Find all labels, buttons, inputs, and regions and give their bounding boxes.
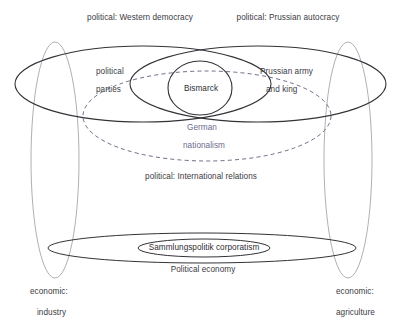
right-vertical-ellipse: [324, 42, 372, 278]
label-top-left-western-democracy: political: Western democracy: [87, 14, 193, 23]
label-sammlungspolitik-corporatism: Sammlungspolitik corporatism: [149, 244, 260, 253]
left-vertical-ellipse: [31, 42, 79, 278]
venn-diagram-canvas: political: Western democracy political: …: [0, 0, 401, 332]
label-top-right-prussian-autocracy: political: Prussian autocracy: [237, 14, 340, 23]
label-economic-industry-line1: economic:: [30, 288, 68, 297]
label-prussian-army-line2: and king: [266, 86, 297, 95]
label-political-parties-line2: parties: [96, 86, 121, 95]
venn-shapes-svg: [0, 0, 401, 332]
label-german-nationalism-line2: nationalism: [183, 142, 225, 151]
label-political-economy: Political economy: [171, 266, 236, 275]
label-economic-agriculture-line2: agriculture: [336, 309, 375, 318]
label-political-parties-line1: political: [96, 68, 124, 77]
label-prussian-army-line1: Prussian army: [260, 68, 313, 77]
label-economic-industry-line2: industry: [37, 309, 66, 318]
left-big-ellipse: [15, 46, 271, 122]
label-bismarck: Bismarck: [184, 85, 218, 94]
label-german-nationalism-line1: German: [187, 124, 217, 133]
label-economic-agriculture-line1: economic:: [336, 288, 374, 297]
label-international-relations: political: International relations: [145, 173, 257, 182]
